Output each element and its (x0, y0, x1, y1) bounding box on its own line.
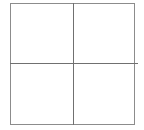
grid-cell-top-right[interactable] (73, 3, 135, 63)
grid-cell-bottom-right[interactable] (73, 63, 135, 125)
grid-cell-top-left[interactable] (10, 3, 73, 63)
grid-cell-bottom-left[interactable] (10, 63, 73, 125)
figure-canvas (0, 0, 144, 130)
